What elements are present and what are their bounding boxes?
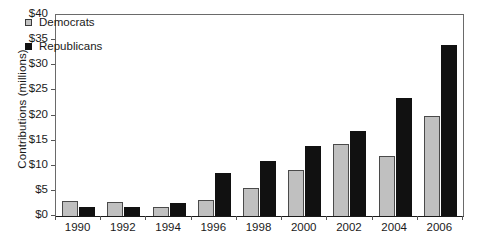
bar-democrats-2002 xyxy=(333,144,349,216)
bar-republicans-1996 xyxy=(215,173,231,216)
y-axis-tick-label: $0 xyxy=(14,209,48,220)
bar-democrats-2006 xyxy=(424,116,440,217)
y-axis-tick-mark xyxy=(51,165,55,166)
legend-label-democrats: Democrats xyxy=(39,16,95,28)
legend-item-democrats: Democrats xyxy=(25,10,175,34)
bar-republicans-1992 xyxy=(124,207,140,216)
x-axis-tick-label: 2006 xyxy=(411,221,467,233)
bar-republicans-2000 xyxy=(305,146,321,216)
x-axis-tick-mark xyxy=(462,216,463,220)
y-axis-tick-mark xyxy=(51,64,55,65)
bar-republicans-1994 xyxy=(170,203,186,216)
x-axis-tick-mark xyxy=(281,216,282,220)
legend-label-republicans: Republicans xyxy=(39,40,102,52)
x-axis-tick-mark xyxy=(55,216,56,220)
legend-swatch-republicans-icon xyxy=(25,43,32,50)
bar-democrats-1992 xyxy=(107,202,123,216)
bar-republicans-2004 xyxy=(396,98,412,216)
x-axis-tick-mark xyxy=(236,216,237,220)
y-axis-tick-mark xyxy=(51,140,55,141)
bar-chart-figure: Contributions (millions) $0$5$10$15$20$2… xyxy=(0,0,478,245)
x-axis-tick-mark xyxy=(191,216,192,220)
bar-democrats-1994 xyxy=(153,207,169,216)
y-axis-tick-mark xyxy=(51,39,55,40)
y-axis-tick-mark xyxy=(51,89,55,90)
bar-republicans-1990 xyxy=(79,207,95,216)
x-axis-tick-mark xyxy=(326,216,327,220)
legend-item-republicans: Republicans xyxy=(25,34,175,58)
bar-democrats-1996 xyxy=(198,200,214,216)
bar-democrats-2000 xyxy=(288,170,304,216)
bar-democrats-1990 xyxy=(62,201,78,216)
y-axis-tick-mark xyxy=(51,215,55,216)
x-axis-tick-mark xyxy=(145,216,146,220)
bar-republicans-1998 xyxy=(260,161,276,216)
x-axis-tick-labels: 199019921994199619982000200220042006 xyxy=(55,221,463,239)
chart-legend: Democrats Republicans xyxy=(25,10,175,58)
y-axis-tick-label: $10 xyxy=(14,159,48,170)
x-axis-tick-mark xyxy=(417,216,418,220)
bar-republicans-2006 xyxy=(441,45,457,216)
bar-republicans-2002 xyxy=(350,131,366,216)
y-axis-tick-mark xyxy=(51,190,55,191)
bar-democrats-1998 xyxy=(243,188,259,216)
y-axis-tick-label: $30 xyxy=(14,58,48,69)
y-axis-tick-label: $25 xyxy=(14,83,48,94)
bar-democrats-2004 xyxy=(379,156,395,216)
x-axis-tick-mark xyxy=(372,216,373,220)
y-axis-tick-label: $15 xyxy=(14,134,48,145)
legend-swatch-democrats-icon xyxy=(25,19,32,26)
y-axis-tick-mark xyxy=(51,115,55,116)
y-axis-tick-label: $20 xyxy=(14,109,48,120)
x-axis-tick-mark xyxy=(100,216,101,220)
y-axis-tick-label: $5 xyxy=(14,184,48,195)
